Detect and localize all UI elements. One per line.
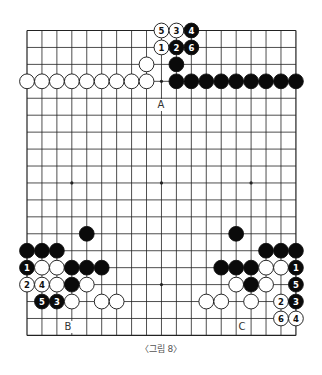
white-stone <box>49 260 64 275</box>
white-stone <box>259 260 274 275</box>
white-stone <box>20 74 35 89</box>
black-stone <box>244 277 259 292</box>
black-stone <box>79 260 94 275</box>
black-stone <box>199 74 214 89</box>
go-board: ABC 53412611245532364 <box>0 0 322 342</box>
black-stone <box>20 243 35 258</box>
black-stone: 2 <box>169 40 184 55</box>
black-stone <box>274 74 289 89</box>
figure-caption: 〈그림 8〉 <box>0 342 322 355</box>
move-number: 3 <box>173 26 179 36</box>
position-label-c: C <box>239 321 246 332</box>
position-label-b: B <box>65 321 72 332</box>
white-stone: 6 <box>274 311 289 326</box>
move-number: 4 <box>293 314 299 324</box>
white-stone <box>94 294 109 309</box>
white-stone <box>214 294 229 309</box>
black-stone <box>64 260 79 275</box>
move-number: 1 <box>24 263 30 273</box>
move-number: 3 <box>54 297 60 307</box>
black-stone: 1 <box>289 260 304 275</box>
white-stone <box>64 74 79 89</box>
white-stone: 4 <box>35 277 50 292</box>
black-stone: 3 <box>49 294 64 309</box>
star-point-dot <box>70 181 73 184</box>
black-stone <box>214 74 229 89</box>
move-number: 1 <box>158 43 164 53</box>
black-stone <box>229 226 244 241</box>
black-stone <box>94 260 109 275</box>
white-stone <box>259 277 274 292</box>
white-stone <box>49 74 64 89</box>
black-stone <box>169 74 184 89</box>
white-stone <box>35 260 50 275</box>
black-stone: 5 <box>35 294 50 309</box>
white-stone <box>79 74 94 89</box>
black-stone <box>35 243 50 258</box>
black-stone <box>244 260 259 275</box>
move-number: 5 <box>158 26 164 36</box>
white-stone <box>139 57 154 72</box>
white-stone: 4 <box>289 311 304 326</box>
black-stone <box>274 243 289 258</box>
move-number: 6 <box>278 314 284 324</box>
white-stone <box>124 74 139 89</box>
black-stone <box>259 74 274 89</box>
black-stone <box>49 243 64 258</box>
black-stone: 5 <box>289 277 304 292</box>
move-number: 3 <box>293 297 299 307</box>
star-point-dot <box>160 80 163 83</box>
white-stone <box>229 277 244 292</box>
star-point-dot <box>250 181 253 184</box>
move-number: 2 <box>24 280 30 290</box>
move-number: 2 <box>278 297 284 307</box>
move-number: 1 <box>293 263 299 273</box>
black-stone: 1 <box>20 260 35 275</box>
black-stone <box>259 243 274 258</box>
black-stone: 3 <box>289 294 304 309</box>
black-stone <box>229 260 244 275</box>
white-stone <box>274 260 289 275</box>
star-point-dot <box>160 283 163 286</box>
white-stone: 2 <box>20 277 35 292</box>
black-stone: 6 <box>184 40 199 55</box>
white-stone: 5 <box>154 23 169 38</box>
move-number: 6 <box>188 43 194 53</box>
white-stone <box>109 294 124 309</box>
move-number: 5 <box>39 297 45 307</box>
white-stone <box>199 294 214 309</box>
black-stone <box>229 74 244 89</box>
black-stone <box>64 277 79 292</box>
black-stone <box>184 74 199 89</box>
black-stone <box>79 226 94 241</box>
star-point-dot <box>160 181 163 184</box>
black-stone <box>214 260 229 275</box>
black-stone <box>169 57 184 72</box>
white-stone <box>35 74 50 89</box>
white-stone <box>64 294 79 309</box>
move-number: 4 <box>188 26 194 36</box>
white-stone <box>109 74 124 89</box>
black-stone: 4 <box>184 23 199 38</box>
move-number: 4 <box>39 280 45 290</box>
white-stone <box>79 277 94 292</box>
white-stone <box>94 74 109 89</box>
position-label-a: A <box>158 99 165 110</box>
white-stone: 3 <box>169 23 184 38</box>
white-stone <box>139 74 154 89</box>
move-number: 5 <box>293 280 299 290</box>
white-stone <box>49 277 64 292</box>
black-stone <box>244 74 259 89</box>
move-number: 2 <box>173 43 179 53</box>
black-stone <box>289 74 304 89</box>
white-stone <box>244 294 259 309</box>
white-stone: 1 <box>154 40 169 55</box>
black-stone <box>289 243 304 258</box>
white-stone: 2 <box>274 294 289 309</box>
